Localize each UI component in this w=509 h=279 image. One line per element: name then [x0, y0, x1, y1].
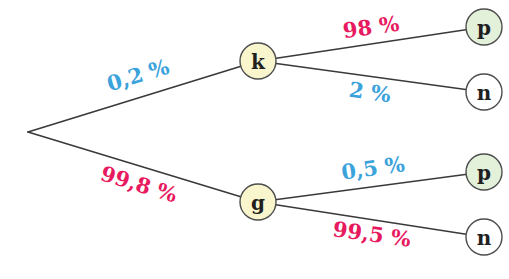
edge-label-root-g: 99,8 %	[98, 161, 180, 208]
edge-label-g-p: 0,5 %	[340, 151, 407, 185]
node-g-label: g	[251, 191, 265, 215]
tree-canvas: 0,2 % 99,8 % 98 % 2 % 0,5 % 99,5 % k g p…	[0, 0, 509, 279]
node-n-upper-label: n	[477, 81, 492, 105]
probability-tree-diagram: 0,2 % 99,8 % 98 % 2 % 0,5 % 99,5 % k g p…	[0, 0, 509, 279]
edge-label-g-n: 99,5 %	[331, 216, 412, 252]
node-p-upper-label: p	[477, 16, 491, 40]
nodes: k g p n p n	[240, 9, 502, 255]
node-p-lower-label: p	[477, 161, 491, 185]
edge-label-k-n: 2 %	[348, 77, 393, 108]
node-n-lower-label: n	[477, 226, 492, 250]
node-k-label: k	[251, 50, 266, 74]
edge-label-k-p: 98 %	[341, 11, 400, 44]
